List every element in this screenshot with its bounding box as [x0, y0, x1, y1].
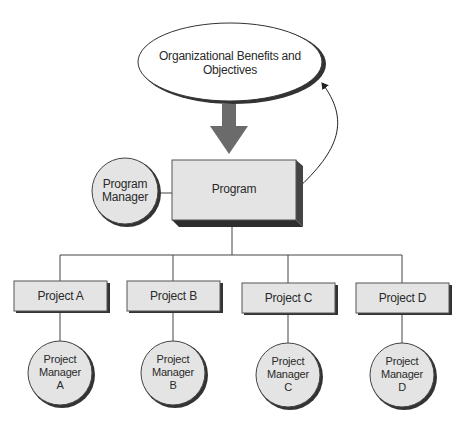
- down-arrow-icon: [210, 104, 248, 154]
- pm-a-line1: Project: [28, 353, 92, 366]
- pm-d-line2: Manager: [370, 368, 434, 381]
- program-label: Program: [172, 183, 296, 196]
- tree-connectors: [60, 227, 402, 345]
- program-manager-line2: Manager: [92, 191, 158, 204]
- program-manager-label: Program Manager: [92, 178, 158, 204]
- pm-a-line2: Manager: [28, 366, 92, 379]
- pm-d-line3: D: [370, 381, 434, 394]
- project-c-label: Project C: [242, 292, 335, 305]
- pm-c-line2: Manager: [256, 368, 320, 381]
- objectives-label: Organizational Benefits and Objectives: [150, 49, 310, 77]
- pm-b-line3: B: [141, 379, 205, 392]
- pm-c-line3: C: [256, 381, 320, 394]
- project-manager-b-label: Project Manager B: [141, 353, 205, 392]
- pm-a-line3: A: [28, 379, 92, 392]
- pm-b-line1: Project: [141, 353, 205, 366]
- pm-b-line2: Manager: [141, 366, 205, 379]
- project-b-label: Project B: [127, 290, 220, 303]
- pm-d-line1: Project: [370, 355, 434, 368]
- project-d-label: Project D: [356, 292, 449, 305]
- project-manager-c-label: Project Manager C: [256, 355, 320, 394]
- project-manager-d-label: Project Manager D: [370, 355, 434, 394]
- pm-c-line1: Project: [256, 355, 320, 368]
- project-a-label: Project A: [14, 290, 107, 303]
- project-manager-a-label: Project Manager A: [28, 353, 92, 392]
